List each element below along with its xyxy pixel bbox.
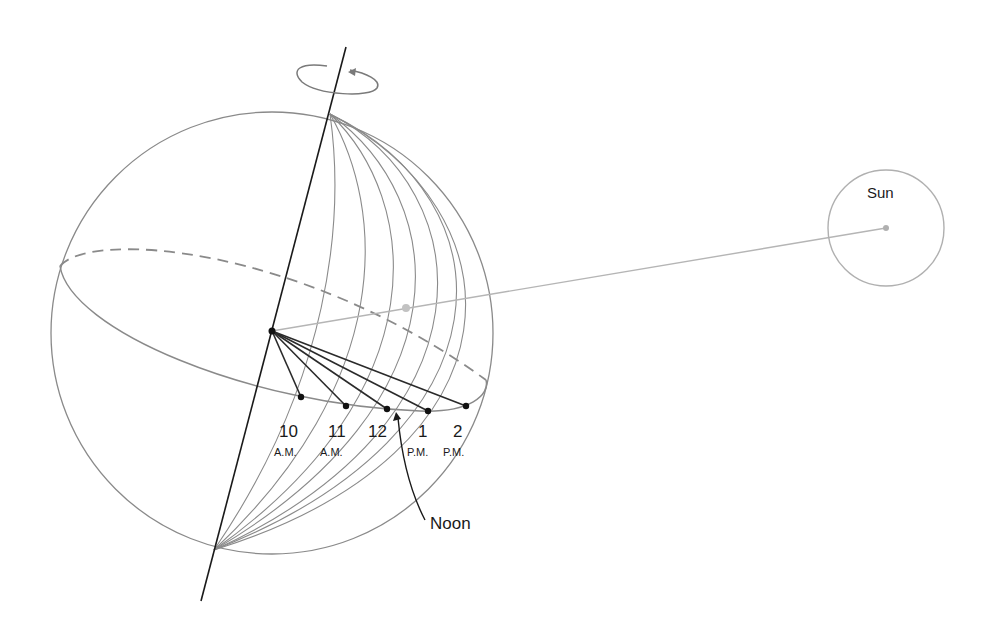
hour-label-1: 1 <box>418 422 427 441</box>
diagram-canvas: Sun 10 A.M. 11 A.M. 12 1 P.M. 2 P.M. Noo… <box>0 0 988 631</box>
hour-label-10: 10 <box>279 422 298 441</box>
rotation-axis <box>201 47 346 601</box>
period-label-2: P.M. <box>443 446 464 458</box>
earth-center-dot <box>269 328 276 335</box>
hour-label-12: 12 <box>368 422 387 441</box>
hour-label-2: 2 <box>453 422 462 441</box>
noon-arrowhead-icon <box>393 412 401 421</box>
meridians <box>214 114 466 550</box>
rotation-arrowhead-icon <box>348 68 356 76</box>
period-label-1: P.M. <box>407 446 428 458</box>
earth-sun-diagram: Sun 10 A.M. 11 A.M. 12 1 P.M. 2 P.M. Noo… <box>0 0 988 631</box>
sun-label: Sun <box>867 184 894 201</box>
hour-label-11: 11 <box>328 422 346 441</box>
period-label-11: A.M. <box>320 446 343 458</box>
sun-center-dot <box>883 225 889 231</box>
period-label-10: A.M. <box>274 446 297 458</box>
noon-label: Noon <box>430 514 471 533</box>
ray-intersection-dot <box>402 304 410 312</box>
